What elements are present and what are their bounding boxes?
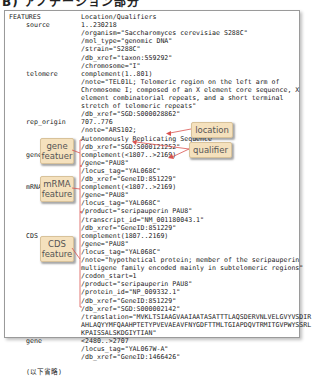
feature-key-cds: CDS bbox=[26, 232, 38, 240]
callout-gene-feature-line1: gene bbox=[46, 141, 67, 151]
feature-line: /locus_tag="YAL068C" bbox=[81, 167, 160, 175]
feature-line: /note="ARS102; bbox=[81, 126, 137, 134]
feature-key-rep-origin: rep_origin bbox=[26, 118, 66, 126]
feature-line: /product="seripauperin PAU8" bbox=[81, 207, 192, 215]
feature-line: /db_xref="GeneID:851229" bbox=[81, 224, 176, 232]
feature-line: /locus_tag="YAL068C" bbox=[81, 248, 160, 256]
callout-cds-feature: CDS feature bbox=[40, 236, 74, 262]
feature-line: complement(<1807..>2169) bbox=[81, 151, 176, 159]
feature-key-telomere: telomere bbox=[26, 70, 58, 78]
feature-line: stretch of telomeric repeats" bbox=[81, 102, 196, 110]
callout-mrna-feature-line2: feature bbox=[42, 189, 73, 199]
feature-line: complement(1..801) bbox=[81, 70, 152, 78]
feature-line: /codon_start=1 bbox=[81, 272, 137, 280]
feature-line: /locus_tag="YAL067W-A" bbox=[81, 345, 168, 353]
feature-line: /db_xref="GeneID:851229" bbox=[81, 297, 176, 305]
feature-line: /db_xref="SGD:S000121252" bbox=[81, 143, 180, 151]
callout-qualifier-label: qualifier bbox=[193, 145, 228, 155]
feature-line: /db_xref="GeneID:851229" bbox=[81, 175, 176, 183]
feature-line: /note="TEL01L; Telomeric region on the l… bbox=[81, 78, 280, 86]
feature-line: /organism="Saccharomyces cerevisiae S288… bbox=[81, 29, 248, 37]
callout-mrna-feature: mRMA feature bbox=[40, 176, 74, 202]
location-qualifiers-header: Location/Qualifiers bbox=[81, 13, 156, 21]
feature-line: element combinatorial repeats, and a sho… bbox=[81, 94, 283, 102]
feature-line: /protein_id="NP_009332.1" bbox=[81, 288, 180, 296]
feature-line: /locus_tag="YAL068C" bbox=[81, 199, 160, 207]
omitted-note: (以下省略) bbox=[26, 368, 62, 376]
feature-line: /strain="S288C" bbox=[81, 45, 141, 53]
feature-line: /db_xref="SGD:S000028862" bbox=[81, 110, 180, 118]
callout-cds-feature-line2: feature bbox=[42, 249, 73, 259]
feature-line: /chromosome="I" bbox=[81, 62, 141, 70]
feature-line: AHLAQYYMFQAAHPTETYPVEVAEAVFNYGDFTTMLTGIA… bbox=[81, 321, 311, 329]
callout-cds-feature-line1: CDS bbox=[48, 239, 66, 249]
feature-line: complement(<1807..>2169) bbox=[81, 183, 176, 191]
feature-line: /db_xref="taxon:559292" bbox=[81, 54, 172, 62]
callout-gene-feature-line2: featuer bbox=[42, 151, 73, 161]
features-header-label: FEATURES bbox=[9, 13, 41, 21]
feature-line: multigene family encoded mainly in subte… bbox=[81, 264, 303, 272]
feature-line: 707..776 bbox=[81, 118, 113, 126]
feature-line: Chromosome I; composed of an X element c… bbox=[81, 86, 299, 94]
feature-line: /mol_type="genomic DNA" bbox=[81, 37, 172, 45]
feature-line: /gene="PAU8" bbox=[81, 159, 129, 167]
feature-line: /gene="PAU8" bbox=[81, 240, 129, 248]
feature-line: /db_xref="GeneID:1466426" bbox=[81, 353, 180, 361]
feature-line: /note="hypothetical protein; member of t… bbox=[81, 256, 299, 264]
feature-line: complement(1807..2169) bbox=[81, 232, 168, 240]
feature-line: /product="seripauperin PAU8" bbox=[81, 280, 192, 288]
feature-line: /gene="PAU8" bbox=[81, 191, 129, 199]
feature-line: 1..230218 bbox=[81, 21, 117, 29]
feature-line: /translation="MVKLTSIAAGVAAIAATASATTTLAQ… bbox=[81, 313, 311, 321]
callout-gene-feature: gene featuer bbox=[40, 138, 74, 164]
callout-qualifier: qualifier bbox=[189, 142, 232, 158]
feature-line: KPAISSALSKDGIYTIAN" bbox=[81, 329, 156, 337]
callout-location: location bbox=[191, 122, 233, 138]
feature-line: <2480..>2707 bbox=[81, 337, 129, 345]
feature-key-gene: gene bbox=[26, 337, 42, 345]
section-heading: B) アノテーション部分 bbox=[2, 0, 140, 9]
feature-line: /db_xref="SGD:S000002142" bbox=[81, 305, 180, 313]
feature-line: /transcript_id="NM_001180043.1" bbox=[81, 216, 204, 224]
feature-key-source: source bbox=[26, 21, 50, 29]
callout-mrna-feature-line1: mRMA bbox=[43, 179, 70, 189]
callout-location-label: location bbox=[195, 125, 229, 135]
